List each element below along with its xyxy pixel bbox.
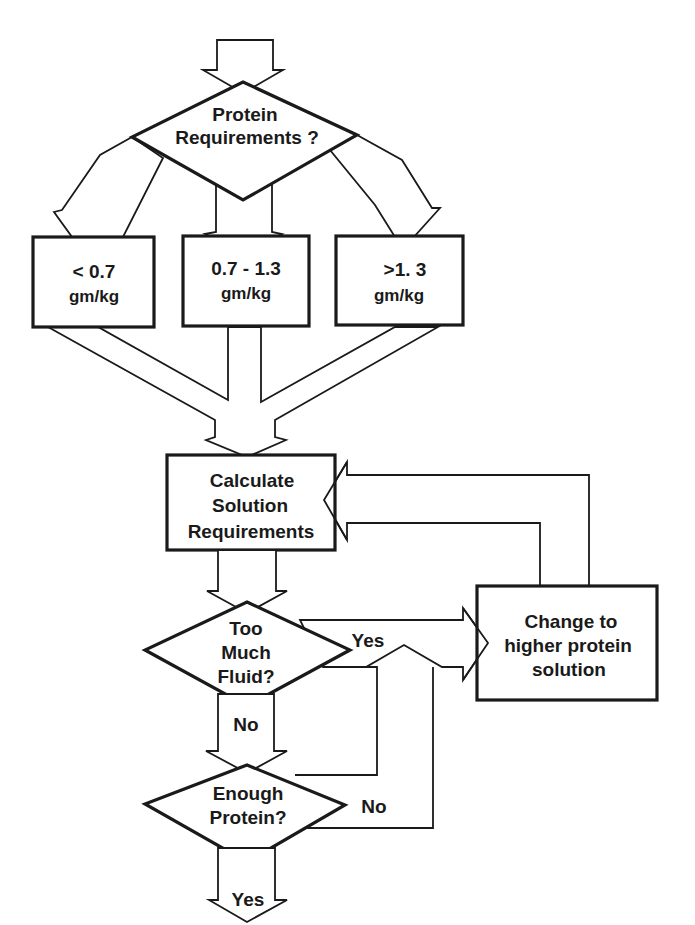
box-change-line3: solution [532,659,606,680]
decision-too-much-fluid: Too Much Fluid? [145,602,350,706]
edge-label-fluid-yes: Yes [352,630,385,651]
box-high-protein-line2: gm/kg [374,286,424,305]
box-change-line2: higher protein [504,635,632,656]
loop-fluid-no-branch [295,667,377,775]
box-mid-protein: 0.7 - 1.3 gm/kg [183,236,309,326]
decision-fluid-line2: Much [221,642,271,663]
edge-label-enough-yes: Yes [232,889,265,910]
decision-enough-line1: Enough [213,783,284,804]
box-calculate-solution: Calculate Solution Requirements [167,455,335,550]
box-change-line1: Change to [525,611,618,632]
edge-label-enough-no: No [361,796,386,817]
arrow-to-high-box [330,135,440,245]
box-mid-protein-line1: 0.7 - 1.3 [211,258,281,279]
arrow-enough-yes-exit: Yes [209,848,287,922]
decision-protein-requirements-line1: Protein [212,104,277,125]
box-low-protein: < 0.7 gm/kg [33,237,154,327]
arrow-fluid-no-to-enough: No [206,694,287,773]
box-low-protein-line2: gm/kg [69,287,119,306]
decision-enough-line2: Protein? [209,807,286,828]
box-mid-protein-line2: gm/kg [221,284,271,303]
merge-arrow-to-calculate [48,327,438,457]
box-calculate-line2: Solution [212,495,288,516]
decision-protein-requirements-line2: Requirements ? [175,127,319,148]
box-high-protein: >1. 3 gm/kg [336,236,463,325]
decision-protein-requirements: Protein Requirements ? [132,82,357,200]
arrow-to-low-box [54,137,163,248]
box-calculate-line3: Requirements [188,521,315,542]
box-high-protein-line1: >1. 3 [384,259,427,280]
box-calculate-line1: Calculate [210,470,294,491]
edge-label-fluid-no: No [233,714,258,735]
feedback-arrow-change-to-calculate [324,462,589,586]
flowchart-canvas: Protein Requirements ? < 0.7 gm/kg 0.7 -… [0,0,695,925]
box-change-higher-protein: Change to higher protein solution [477,586,657,700]
box-low-protein-line1: < 0.7 [73,261,116,282]
decision-fluid-line1: Too [229,618,262,639]
decision-fluid-line3: Fluid? [218,666,275,687]
